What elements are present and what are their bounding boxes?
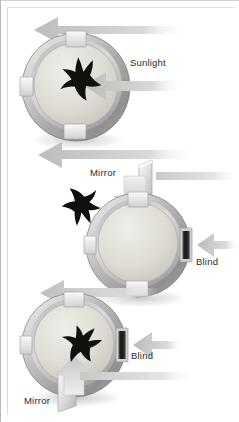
label-blind-panel-2: Blind bbox=[196, 257, 218, 267]
panel-2-blocked-light-arrow bbox=[197, 233, 238, 257]
panel-3-apparatus bbox=[20, 292, 196, 412]
panel-1-apparatus bbox=[20, 17, 196, 168]
label-mirror-panel-2: Mirror bbox=[90, 168, 116, 178]
label-sunlight: Sunlight bbox=[130, 58, 166, 68]
panel-2-cage-floor bbox=[98, 203, 178, 283]
diagram-canvas bbox=[0, 0, 239, 422]
figure-diagram: Sunlight Mirror Blind Blind Mirror bbox=[0, 0, 239, 422]
panel-3-blind-slat[interactable] bbox=[116, 328, 128, 362]
panel-2-incident-light-arrow bbox=[156, 172, 238, 180]
label-blind-panel-3: Blind bbox=[131, 351, 153, 361]
panel-2-apparatus bbox=[40, 160, 238, 308]
label-mirror-panel-3: Mirror bbox=[24, 396, 50, 406]
panel-2-blind-slat[interactable] bbox=[180, 228, 192, 262]
panel-3-outgoing-beam-right bbox=[80, 372, 196, 380]
